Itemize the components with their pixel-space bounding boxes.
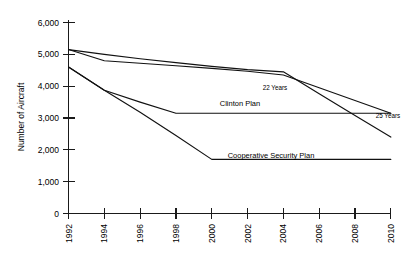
x-tick-label: 1992: [64, 224, 74, 243]
line-chart: 6,000 5,000 4,000 3,000 2,000 1,000 0 Nu…: [0, 0, 419, 259]
x-tick-label: 2008: [350, 224, 360, 243]
x-tick-label: 1994: [99, 224, 109, 243]
x-tick-label: 2004: [278, 224, 288, 243]
series-label-cooperative-security-plan: Cooperative Security Plan: [228, 151, 315, 160]
series-label-clinton-plan: Clinton Plan: [220, 99, 260, 108]
y-tick-label: 4,000: [38, 81, 60, 91]
y-tick-label: 2,000: [38, 145, 60, 155]
x-tick-label: 2010: [386, 224, 396, 243]
x-tick-label: 2002: [243, 224, 253, 243]
x-tick-label: 2000: [207, 224, 217, 243]
y-tick-labels: 6,000 5,000 4,000 3,000 2,000 1,000 0: [38, 18, 60, 219]
series-line-22-years: [69, 50, 391, 138]
y-axis-title: Number of Aircraft: [16, 82, 26, 151]
y-tick-label: 1,000: [38, 177, 60, 187]
x-tick-labels: 1992 1994 1996 1998 2000 2002 2004 2006 …: [64, 224, 396, 243]
x-tick-label: 1998: [171, 224, 181, 243]
x-tick-label: 1996: [135, 224, 145, 243]
x-tick-label: 2006: [314, 224, 324, 243]
y-tick-label: 3,000: [38, 113, 60, 123]
series-label-22-years: 22 Years: [263, 84, 288, 91]
series-label-25-years: 25 Years: [376, 112, 401, 119]
chart-container: 6,000 5,000 4,000 3,000 2,000 1,000 0 Nu…: [0, 0, 419, 259]
y-tick-label: 5,000: [38, 49, 60, 59]
y-tick-label: 6,000: [38, 18, 60, 28]
y-tick-label: 0: [54, 209, 59, 219]
